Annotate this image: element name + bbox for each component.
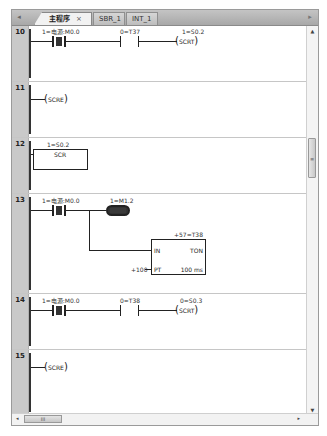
timer-in-pin: IN: [154, 247, 160, 254]
power-rail: [29, 297, 31, 346]
wire: [66, 210, 106, 211]
contact-no-energized[interactable]: [52, 36, 66, 47]
wire: [66, 41, 121, 42]
wire: [89, 250, 151, 251]
tab-label: 主程序: [49, 15, 70, 23]
rung-14[interactable]: 14 1=电源:M0.0 0=T38 0=S0.3 (SCRT): [12, 294, 308, 350]
coil-scre[interactable]: (SCRE): [44, 94, 68, 105]
wire: [139, 310, 177, 311]
ton-timer-box[interactable]: IN TON PT 100 ms: [151, 239, 206, 275]
wire: [31, 99, 45, 100]
contact-no-energized[interactable]: [52, 305, 66, 316]
vertical-scrollbar[interactable]: ▲ ≡ ▼: [306, 26, 318, 415]
box-text: SCR: [54, 151, 66, 158]
tab-label: SBR_1: [99, 15, 121, 23]
tab-int-1[interactable]: INT_1: [126, 12, 158, 25]
horizontal-scrollbar[interactable]: ◂ III ▸: [12, 413, 318, 425]
wire: [31, 41, 52, 42]
tab-sbr-1[interactable]: SBR_1: [93, 12, 125, 25]
scr-box[interactable]: SCR: [33, 149, 88, 170]
rung-12[interactable]: 12 1=S0.2 SCR: [12, 138, 308, 194]
coil-text: SCRT: [179, 307, 194, 314]
rung-number: 13: [13, 196, 27, 204]
timer-base: 100 ms: [181, 266, 203, 273]
rung-number: 12: [13, 140, 27, 148]
contact-label: 0=T38: [120, 297, 140, 304]
tab-bar: ◂ 主程序× SBR_1 INT_1 ▸: [12, 10, 318, 26]
wire: [66, 310, 121, 311]
tab-scroll-right-icon[interactable]: ▸: [305, 12, 315, 23]
vertical-scroll-thumb[interactable]: ≡: [308, 138, 316, 178]
wire: [31, 367, 45, 368]
scroll-left-arrow-icon[interactable]: ◂: [16, 415, 19, 421]
coil-label: 0=S0.3: [180, 297, 202, 304]
scroll-right-arrow-icon[interactable]: ▸: [297, 415, 300, 421]
rung-13[interactable]: 13 1=电源:M0.0 1=M1.2 +57=T38 IN TON PT 10…: [12, 194, 308, 294]
rung-11[interactable]: 11 (SCRE): [12, 82, 308, 138]
timer-label: +57=T38: [174, 231, 203, 238]
contact-no[interactable]: [120, 36, 139, 47]
contact-label: 1=电源:M0.0: [42, 28, 80, 35]
rung-number: 14: [13, 296, 27, 304]
tab-scroll-left-icon[interactable]: ◂: [14, 12, 24, 23]
coil-label: 1=S0.2: [182, 28, 204, 35]
coil-text: SCRE: [48, 96, 64, 103]
power-rail: [29, 141, 31, 190]
wire: [31, 210, 52, 211]
rung-15[interactable]: 15 (SCRE): [12, 350, 308, 415]
rung-number: 11: [13, 84, 27, 92]
ladder-editor-window: ◂ 主程序× SBR_1 INT_1 ▸ 10 1=电源:M0.0 0=T37 …: [11, 9, 319, 426]
wire: [139, 41, 177, 42]
timer-pt-pin: PT: [154, 266, 161, 273]
rung-10[interactable]: 10 1=电源:M0.0 0=T37 1=S0.2 (SCRT): [12, 26, 308, 82]
contact-label: 0=T37: [120, 28, 140, 35]
horizontal-scroll-thumb[interactable]: III: [24, 415, 62, 423]
coil-scrt[interactable]: (SCRT): [175, 305, 198, 316]
coil-text: SCRE: [48, 364, 64, 371]
rung-number: 10: [13, 28, 27, 36]
box-label: 1=S0.2: [47, 141, 69, 148]
scroll-up-arrow-icon[interactable]: ▲: [307, 28, 318, 34]
contact-no-energized[interactable]: [52, 205, 66, 216]
coil-text: SCRT: [179, 38, 194, 45]
close-icon[interactable]: ×: [76, 15, 82, 23]
wire: [31, 310, 52, 311]
coil-scrt[interactable]: (SCRT): [175, 36, 198, 47]
coil-label: 1=M1.2: [110, 197, 134, 204]
timer-type: TON: [190, 247, 203, 254]
contact-label: 1=电源:M0.0: [42, 297, 80, 304]
contact-label: 1=电源:M0.0: [42, 197, 80, 204]
contact-no[interactable]: [120, 305, 139, 316]
rung-number: 15: [13, 352, 27, 360]
tab-main-program[interactable]: 主程序×: [34, 12, 92, 25]
coil-scre[interactable]: (SCRE): [44, 362, 68, 373]
wire: [145, 269, 151, 270]
coil-energized[interactable]: [106, 205, 130, 216]
power-rail: [29, 29, 31, 78]
branch-wire: [89, 210, 90, 250]
ladder-canvas[interactable]: 10 1=电源:M0.0 0=T37 1=S0.2 (SCRT) 11 (SCR…: [12, 26, 308, 415]
power-rail: [29, 85, 31, 134]
tab-label: INT_1: [132, 15, 152, 23]
power-rail: [29, 353, 31, 412]
